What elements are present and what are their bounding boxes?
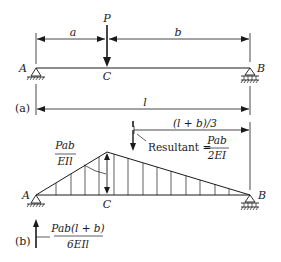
dimension-a-label: a <box>70 26 77 39</box>
peak-value-numerator: Pab <box>54 139 75 151</box>
pin-support-a <box>27 68 45 80</box>
roller-support-b-b <box>241 195 259 210</box>
peak-arrow-head-top <box>104 153 110 160</box>
resultant-label: Resultant = <box>148 141 211 153</box>
reaction-numerator: Pab(l + b) <box>50 222 104 234</box>
load-label: P <box>102 12 111 25</box>
dimension-l-label: l <box>143 96 147 109</box>
peak-value-denominator: EIl <box>56 155 72 167</box>
load-arrow-head <box>103 57 111 67</box>
point-c-label: C <box>103 70 112 83</box>
resultant-arrow-head <box>130 143 136 151</box>
point-b-label-b: B <box>257 189 266 202</box>
dimension-b-label: b <box>174 26 181 39</box>
peak-arrow-head-bottom <box>104 187 110 194</box>
resultant-distance-label: (l + b)/3 <box>173 117 217 129</box>
resultant-numerator: Pab <box>206 134 227 146</box>
diagram-hatching <box>56 154 229 195</box>
figure-a: a b P A B C l (a) <box>15 12 265 115</box>
resultant-denominator: 2EI <box>207 149 227 161</box>
beam-diagram: a b P A B C l (a) <box>0 0 281 262</box>
figure-b: (l + b)/3 Resultant = Pab 2EI <box>15 117 266 250</box>
panel-a-label: (a) <box>15 102 30 115</box>
point-a-label-b: A <box>21 189 30 202</box>
panel-b-label: (b) <box>15 235 31 248</box>
point-b-label: B <box>256 62 265 75</box>
resultant-leader <box>137 134 146 141</box>
point-c-label-b: C <box>103 198 112 211</box>
reaction-arrow-head <box>33 219 39 227</box>
peak-leader <box>84 165 106 174</box>
reaction-denominator: 6EIl <box>67 238 89 250</box>
point-a-label: A <box>18 62 27 75</box>
